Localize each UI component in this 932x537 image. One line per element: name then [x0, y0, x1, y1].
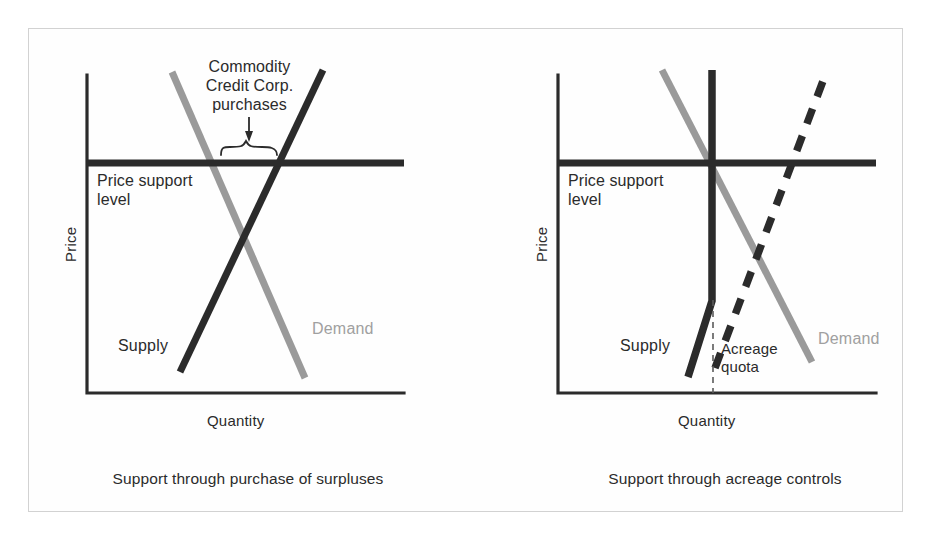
- right-demand-curve: [662, 70, 812, 362]
- right-supply-curve: [688, 70, 712, 377]
- right-unrestricted-supply-curve: [715, 73, 826, 368]
- commodity-credit-purchases-label: Commodity Credit Corp. purchases: [152, 58, 347, 115]
- left-price-support-label: Price support level: [97, 172, 257, 210]
- left-panel-caption: Support through purchase of surpluses: [58, 470, 438, 488]
- right-x-axis-title: Quantity: [678, 412, 735, 430]
- right-price-support-label: Price support level: [568, 172, 728, 210]
- right-y-axis-title: Price: [533, 227, 551, 262]
- left-y-axis-title: Price: [62, 227, 80, 262]
- right-demand-label: Demand: [818, 330, 880, 349]
- chart-vector-layer: [0, 0, 932, 537]
- left-x-axis-title: Quantity: [207, 412, 264, 430]
- right-supply-label: Supply: [620, 337, 670, 356]
- left-demand-curve: [172, 72, 305, 378]
- left-surplus-brace: [221, 141, 277, 155]
- left-supply-curve: [180, 70, 323, 372]
- figure-root: Commodity Credit Corp. purchases Price s…: [0, 0, 932, 537]
- acreage-quota-label: Acreage quota: [721, 340, 816, 375]
- right-panel-caption: Support through acreage controls: [535, 470, 915, 488]
- left-demand-label: Demand: [312, 320, 374, 339]
- left-supply-label: Supply: [118, 337, 168, 356]
